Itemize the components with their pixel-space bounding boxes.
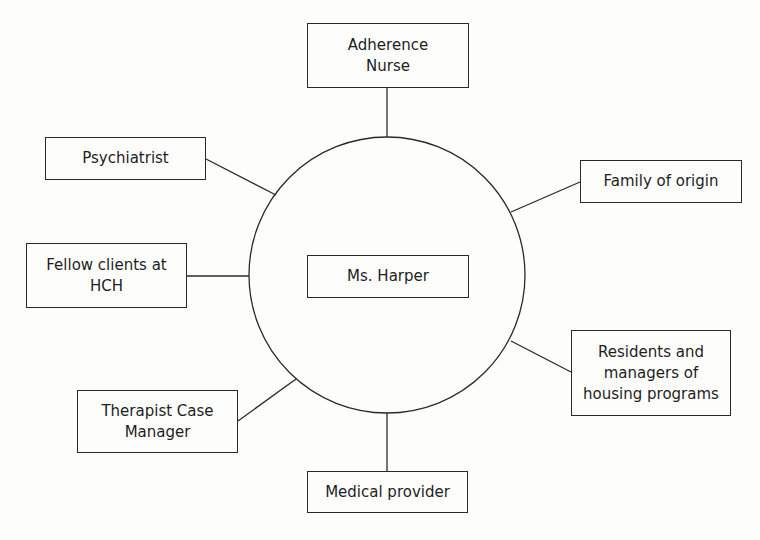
node-label-line: Family of origin [604,171,719,192]
center-label: Ms. Harper [347,266,429,287]
node-residents-managers: Residents and managers of housing progra… [571,330,731,416]
edge-psychiatrist [206,159,276,195]
ecomap-diagram: Ms. Harper Adherence Nurse Family of ori… [0,0,760,540]
edge-therapist-case-manager [238,379,296,421]
node-label-line: Therapist Case [101,401,213,422]
node-label-line: Adherence [348,35,428,56]
node-label-line: Nurse [348,56,428,77]
edge-residents-managers [511,341,571,372]
node-label-line: Psychiatrist [82,148,169,169]
node-label-line: Residents and [583,342,719,363]
edge-family-of-origin [511,182,580,212]
node-label-line: Manager [101,422,213,443]
center-node-ms-harper: Ms. Harper [307,255,469,298]
node-family-of-origin: Family of origin [580,160,742,203]
node-medical-provider: Medical provider [307,471,468,513]
node-label-line: Medical provider [325,482,450,503]
node-label-line: Fellow clients at [46,255,166,276]
node-fellow-clients: Fellow clients at HCH [26,243,187,308]
node-label-line: managers of [583,363,719,384]
node-adherence-nurse: Adherence Nurse [307,23,469,88]
node-psychiatrist: Psychiatrist [45,137,206,180]
node-label-line: housing programs [583,384,719,405]
node-label-line: HCH [46,276,166,297]
node-therapist-case-manager: Therapist Case Manager [77,390,238,453]
